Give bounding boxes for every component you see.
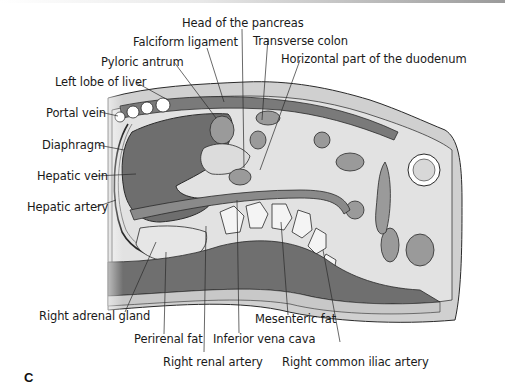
label-mesenteric-fat: Mesenteric fat bbox=[255, 312, 336, 326]
label-transverse-colon: Transverse colon bbox=[253, 34, 348, 48]
label-falciform-ligament: Falciform ligament bbox=[133, 35, 238, 49]
panel-letter: C bbox=[24, 370, 33, 385]
label-diaphragm: Diaphragm bbox=[42, 138, 105, 152]
label-left-lobe-liver: Left lobe of liver bbox=[55, 75, 147, 89]
label-pyloric-antrum: Pyloric antrum bbox=[101, 55, 184, 69]
label-horizontal-duodenum: Horizontal part of the duodenum bbox=[281, 52, 467, 66]
label-head-of-pancreas: Head of the pancreas bbox=[182, 16, 304, 30]
label-right-adrenal-gland: Right adrenal gland bbox=[39, 309, 150, 323]
label-right-renal-artery: Right renal artery bbox=[163, 355, 263, 369]
pyloric-antrum bbox=[210, 116, 234, 144]
label-hepatic-artery: Hepatic artery bbox=[27, 200, 108, 214]
label-right-common-iliac-artery: Right common iliac artery bbox=[282, 355, 429, 369]
label-inferior-vena-cava: Inferior vena cava bbox=[213, 332, 315, 346]
label-hepatic-vein: Hepatic vein bbox=[37, 169, 108, 183]
label-perirenal-fat: Perirenal fat bbox=[134, 332, 203, 346]
label-portal-vein: Portal vein bbox=[46, 106, 106, 120]
